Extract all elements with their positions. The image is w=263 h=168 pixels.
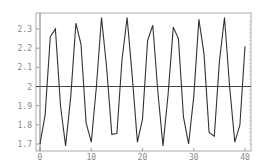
x-tick-label: 40 — [240, 153, 250, 162]
y-tick-label: 2.3 — [18, 25, 33, 34]
x-tick-label: 10 — [86, 153, 96, 162]
y-tick-label: 1.9 — [18, 102, 33, 111]
x-tick-label: 30 — [189, 153, 199, 162]
x-tick-label: 20 — [138, 153, 148, 162]
y-tick-label: 2.2 — [18, 44, 33, 53]
y-tick-label: 2 — [27, 83, 32, 92]
y-tick-label: 1.7 — [18, 140, 33, 149]
x-axis: 010203040 — [38, 148, 250, 162]
x-tick-label: 0 — [38, 153, 43, 162]
y-tick-label: 2.1 — [18, 63, 33, 72]
y-tick-label: 1.8 — [18, 121, 33, 130]
line-chart: 1.71.81.922.12.22.3 010203040 — [0, 0, 263, 168]
data-series-line — [40, 18, 245, 146]
plot-frame — [36, 13, 251, 151]
y-axis: 1.71.81.922.12.22.3 — [18, 21, 251, 149]
